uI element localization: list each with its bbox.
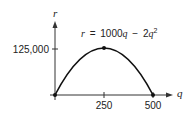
equation-annotation: r = 1000q − 2q2	[81, 27, 158, 39]
chart: r q 125,000 250 500 r = 1000q − 2q2	[0, 0, 194, 114]
y-axis-arrow-icon	[53, 21, 58, 28]
curve-revenue	[55, 48, 153, 95]
y-axis-label: r	[53, 7, 58, 19]
x-axis-label: q	[177, 87, 183, 99]
point-origin	[53, 93, 57, 97]
point-vertex	[102, 46, 106, 50]
x-tick-label-250: 250	[96, 100, 113, 111]
y-axis	[52, 21, 58, 100]
y-tick-label: 125,000	[13, 44, 50, 55]
x-tick-label-500: 500	[145, 100, 162, 111]
point-root-500	[151, 93, 155, 97]
x-axis-arrow-icon	[166, 93, 173, 98]
